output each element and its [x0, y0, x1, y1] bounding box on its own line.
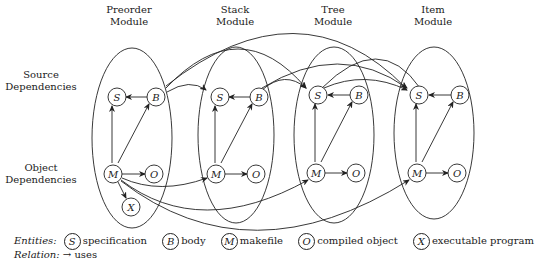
node-label: S — [114, 92, 121, 103]
node-label: O — [453, 168, 461, 179]
node-label: B — [455, 90, 463, 101]
legend-relation: Relation: → uses — [14, 249, 97, 261]
legend-spec-icon: S — [64, 233, 81, 250]
node-label: B — [151, 92, 159, 103]
legend-label: body — [181, 235, 205, 246]
node-label: M — [210, 169, 222, 180]
node-label: X — [126, 202, 135, 213]
node-label: O — [352, 168, 360, 179]
legend-entities: Entities: Sspecification Bbody Mmakefile… — [14, 233, 539, 250]
module-boundary-item — [394, 47, 474, 219]
legend-label: compiled object — [317, 235, 397, 246]
module-boundary-tree — [294, 47, 374, 223]
node-label: M — [310, 168, 322, 179]
legend-entities-label: Entities: — [14, 235, 57, 246]
legend-label: makefile — [240, 235, 283, 246]
legend-object-icon: O — [298, 233, 315, 250]
legend-makefile-icon: M — [221, 233, 238, 250]
node-label: M — [411, 168, 423, 179]
legend-label: specification — [83, 235, 147, 246]
node-label: S — [217, 92, 224, 103]
legend-body-icon: B — [162, 233, 179, 250]
legend-executable-icon: X — [413, 233, 430, 250]
legend-label: executable program — [432, 235, 534, 246]
node-label: M — [107, 169, 119, 180]
node-label: S — [416, 90, 423, 101]
node-label: O — [150, 169, 158, 180]
node-label: B — [354, 90, 362, 101]
node-label: O — [252, 169, 260, 180]
arrow-icon: → — [63, 249, 71, 260]
legend-relation-label: Relation: — [14, 249, 60, 260]
legend-relation-text: uses — [74, 249, 97, 260]
node-label: S — [315, 90, 322, 101]
node-label: B — [254, 92, 262, 103]
